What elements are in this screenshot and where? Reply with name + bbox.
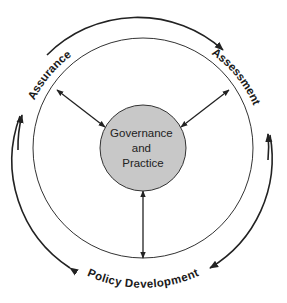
- label-assurance: Assurance: [25, 48, 73, 102]
- governance-cycle-diagram: Governance and Practice Assurance Assess…: [0, 0, 287, 303]
- label-assessment: Assessment: [210, 46, 263, 107]
- center-line-2: and: [132, 142, 151, 154]
- arc-right: [210, 135, 272, 268]
- center-line-1: Governance: [110, 127, 173, 139]
- label-policy-development: Policy Development: [86, 266, 200, 289]
- connector-assurance: [57, 90, 105, 127]
- svg-text:Assessment: Assessment: [210, 46, 263, 107]
- svg-text:Policy Development: Policy Development: [86, 266, 200, 289]
- svg-text:Assurance: Assurance: [25, 48, 73, 102]
- arc-left: [12, 116, 70, 268]
- arc-right-up: [268, 134, 269, 160]
- center-line-3: Practice: [122, 157, 164, 169]
- connector-assessment: [181, 90, 229, 127]
- arc-top: [47, 17, 223, 55]
